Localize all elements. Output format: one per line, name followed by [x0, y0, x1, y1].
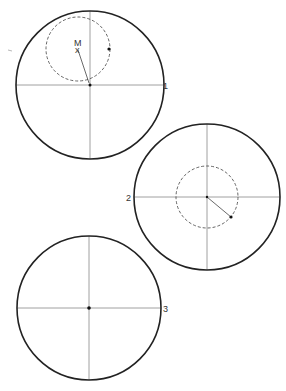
panel-3: 3 — [17, 236, 168, 380]
panel-2-radius-line — [207, 197, 231, 217]
diagram-canvas: x M 1 2 3 — [0, 0, 286, 391]
panel-1-marker-label: M — [74, 38, 82, 48]
panel-1: x M 1 — [16, 11, 168, 159]
panel-2-center-dot — [206, 196, 208, 198]
panel-3-center-dot — [87, 306, 91, 310]
panel-2: 2 — [126, 124, 280, 270]
scan-speck — [8, 50, 12, 51]
panel-3-label: 3 — [163, 304, 168, 314]
panel-1-radius-line — [78, 50, 89, 83]
panel-1-label: 1 — [163, 81, 168, 91]
panel-1-point — [107, 47, 110, 50]
panel-2-label: 2 — [126, 193, 131, 203]
panel-2-point — [229, 215, 232, 218]
panel-1-center-dot — [89, 84, 92, 87]
